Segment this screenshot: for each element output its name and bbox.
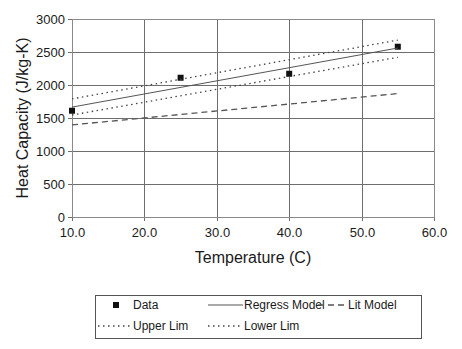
legend-label-upper-lim: Upper Lim xyxy=(133,319,188,333)
data-point-marker xyxy=(69,108,75,114)
x-tick-label: 20.0 xyxy=(132,225,157,240)
x-tick-label: 40.0 xyxy=(277,225,302,240)
y-tick-label: 0 xyxy=(58,210,65,225)
y-axis-ticks: 050010001500200025003000 xyxy=(36,12,65,225)
y-tick-label: 3000 xyxy=(36,12,65,27)
y-axis-title: Heat Capacity (J/kg-K) xyxy=(14,38,31,199)
x-tick-label: 10.0 xyxy=(60,225,85,240)
y-tick-label: 1000 xyxy=(36,144,65,159)
legend: Data Regress Model Lit Model Upper Lim L… xyxy=(96,296,422,339)
y-tick-label: 2000 xyxy=(36,78,65,93)
data-marker-icon xyxy=(113,302,119,308)
legend-label-regress-model: Regress Model xyxy=(244,298,325,312)
x-tick-label: 60.0 xyxy=(422,225,447,240)
y-tick-label: 500 xyxy=(43,177,65,192)
x-tick-label: 30.0 xyxy=(205,225,230,240)
legend-label-lit-model: Lit Model xyxy=(348,298,397,312)
series-line-regress-model xyxy=(72,48,398,107)
series-line-lower-lim xyxy=(72,57,398,115)
legend-label-lower-lim: Lower Lim xyxy=(244,319,299,333)
y-tick-label: 1500 xyxy=(36,111,65,126)
x-axis-ticks: 10.020.030.040.050.060.0 xyxy=(60,225,447,240)
x-tick-label: 50.0 xyxy=(350,225,375,240)
legend-label-data: Data xyxy=(133,298,159,312)
plot-grid xyxy=(72,19,435,218)
series-line-upper-lim xyxy=(72,40,398,99)
heat-capacity-chart: 050010001500200025003000 10.020.030.040.… xyxy=(0,0,462,349)
x-axis-title: Temperature (C) xyxy=(195,249,311,266)
y-tick-label: 2500 xyxy=(36,45,65,60)
